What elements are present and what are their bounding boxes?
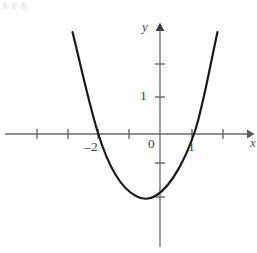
parabola-curve: [73, 32, 218, 199]
y-axis-label: y: [142, 20, 148, 33]
x-intercept-label-1: 1: [188, 140, 195, 154]
origin-label: 0: [148, 137, 155, 151]
x-axis-label: x: [250, 136, 256, 149]
parabola-plot: [0, 0, 257, 253]
y-axis-arrowhead: [156, 23, 165, 32]
y-tick-label-1: 1: [140, 89, 147, 103]
figure-canvas: y x 0 1 –2 1: [0, 0, 257, 253]
x-intercept-label-minus-2: –2: [84, 140, 98, 154]
